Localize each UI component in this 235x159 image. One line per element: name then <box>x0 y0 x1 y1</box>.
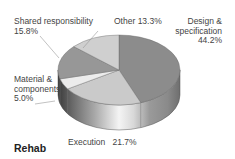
label-design-specification: Design & specification 44.2% <box>175 17 222 46</box>
label-shared-responsibility: Shared responsibility 15.8% <box>14 17 93 36</box>
pie-top-slices <box>58 35 180 105</box>
chart-title: Rehab <box>14 142 46 154</box>
label-execution: Execution 21.7% <box>68 138 137 148</box>
label-other: Other 13.3% <box>114 17 162 27</box>
label-material-components: Material & components 5.0% <box>14 75 60 104</box>
